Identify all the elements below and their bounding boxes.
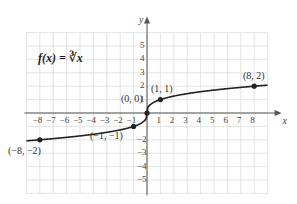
point-label: (−1, −1): [90, 131, 123, 141]
x-tick-label: 2: [170, 116, 175, 125]
x-tick-label: −6: [60, 116, 70, 125]
y-tick-label: 3: [140, 68, 145, 77]
y-tick-label: 2: [140, 81, 145, 90]
x-axis-label: x: [283, 115, 287, 126]
data-point: [158, 97, 163, 102]
y-tick-label: −3: [137, 148, 147, 157]
x-tick-label: 4: [197, 116, 202, 125]
x-tick-label: 7: [237, 116, 242, 125]
point-label: (−8, −2): [8, 146, 41, 156]
x-tick-label: 6: [223, 116, 228, 125]
x-tick-label: −4: [86, 116, 96, 125]
x-tick-label: 1: [156, 116, 161, 125]
x-tick-label: −8: [33, 116, 43, 125]
point-label: (0, 0): [121, 94, 143, 104]
y-tick-label: −2: [137, 135, 147, 144]
y-tick-label: 4: [140, 54, 145, 63]
x-tick-label: 8: [250, 116, 255, 125]
y-tick-label: −5: [137, 175, 147, 184]
chart-area: f(x) = ∛x −8−7−6−5−4−3−2−11234567854321−…: [0, 0, 297, 204]
plot-svg: [0, 0, 297, 204]
point-label: (8, 2): [243, 71, 265, 81]
function-label: f(x) = ∛x: [38, 51, 83, 66]
x-tick-label: −7: [46, 116, 56, 125]
x-tick-label: −2: [113, 116, 123, 125]
y-axis-arrow-icon: [144, 17, 150, 24]
data-point: [37, 137, 42, 142]
x-tick-label: −5: [73, 116, 83, 125]
data-point: [144, 110, 149, 115]
x-axis-arrow-icon: [275, 110, 282, 116]
point-label: (1, 1): [151, 84, 173, 94]
data-point: [252, 84, 257, 89]
x-tick-label: −1: [127, 116, 137, 125]
y-tick-label: −4: [137, 162, 147, 171]
y-axis-label: y: [139, 14, 143, 25]
x-tick-label: 5: [210, 116, 215, 125]
x-tick-label: 3: [183, 116, 188, 125]
y-tick-label: 5: [140, 41, 145, 50]
x-tick-label: −3: [100, 116, 110, 125]
